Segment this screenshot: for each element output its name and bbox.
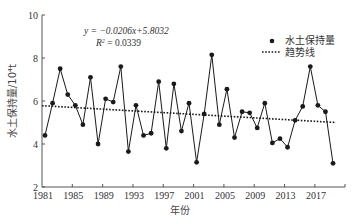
data-point	[331, 161, 336, 166]
trend-line	[42, 106, 336, 123]
data-point	[270, 141, 275, 146]
data-point	[194, 160, 199, 165]
data-point	[323, 109, 328, 114]
data-point	[187, 101, 192, 106]
data-point	[50, 101, 55, 106]
chart: 246810 198119851989199319972001200520092…	[0, 0, 359, 224]
data-point	[141, 133, 146, 138]
x-axis-title: 年份	[170, 204, 190, 216]
data-point	[179, 129, 184, 134]
x-tick-label: 1981	[33, 190, 53, 201]
data-point	[278, 136, 283, 141]
y-axis-title: 水土保持量/10⁴t	[6, 64, 18, 138]
legend-marker-icon	[270, 39, 275, 44]
y-tick-label: 6	[33, 96, 38, 107]
data-point	[96, 142, 101, 147]
data-point	[81, 122, 86, 127]
data-markers	[43, 52, 336, 165]
x-tick-label: 2005	[215, 190, 235, 201]
data-point	[247, 110, 252, 115]
data-point	[209, 52, 214, 57]
data-point	[255, 125, 260, 130]
x-tick-label: 2001	[185, 190, 205, 201]
data-point	[43, 133, 48, 138]
data-point	[118, 64, 123, 69]
x-tick-label: 1997	[154, 190, 174, 201]
data-point	[156, 79, 161, 84]
data-point	[232, 135, 237, 140]
x-tick-label: 2013	[276, 190, 296, 201]
data-point	[315, 103, 320, 108]
data-point	[164, 146, 169, 151]
x-tick-label: 1993	[124, 190, 144, 201]
data-point	[202, 112, 207, 117]
equation-label: y = −0.0206x+5.8032	[83, 26, 169, 36]
data-point	[73, 103, 78, 108]
data-point	[111, 100, 116, 105]
data-point	[126, 149, 131, 154]
data-point	[285, 145, 290, 150]
data-point	[308, 64, 313, 69]
data-point	[149, 131, 154, 136]
x-tick-label: 2009	[245, 190, 265, 201]
data-point	[217, 122, 222, 127]
x-tick-label: 2017	[306, 190, 326, 201]
data-point	[240, 109, 245, 114]
data-point	[103, 96, 108, 101]
data-point	[300, 104, 305, 109]
data-point	[88, 75, 93, 80]
data-point	[171, 81, 176, 86]
legend: 水土保持量 趋势线	[262, 34, 335, 58]
legend-trend-label: 趋势线	[285, 46, 315, 58]
y-tick-label: 4	[33, 139, 38, 150]
data-point	[225, 87, 230, 92]
x-tick-label: 1989	[94, 190, 114, 201]
data-point	[262, 101, 267, 106]
data-point	[65, 92, 70, 97]
x-tick-label: 1985	[63, 190, 83, 201]
data-point	[134, 103, 139, 108]
y-tick-label: 8	[33, 53, 38, 64]
legend-series-label: 水土保持量	[285, 34, 335, 46]
data-point	[293, 118, 298, 123]
r2-label: R2 = 0.0339	[95, 38, 141, 48]
data-point	[58, 66, 63, 71]
y-tick-label: 10	[28, 10, 38, 21]
